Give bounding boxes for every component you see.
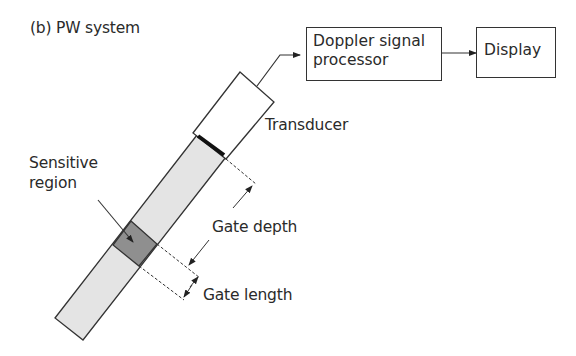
processor-label-line2: processor: [313, 51, 441, 70]
sensitive-region-pointer: [98, 200, 133, 242]
sensitive-region-label-line1: Sensitive: [29, 155, 98, 173]
gate-depth-arrow-top: [233, 186, 252, 208]
processor-label-line1: Doppler signal: [313, 32, 441, 51]
gate-depth-arrow-bottom: [189, 240, 209, 265]
gate-length-extension-bottom: [139, 266, 184, 300]
gate-length-arrow-bottom: [184, 285, 192, 297]
gate-depth-extension-bottom: [157, 244, 200, 278]
doppler-processor-block: Doppler signal processor: [306, 27, 442, 81]
gate-depth-label: Gate depth: [212, 219, 297, 237]
display-label: Display: [484, 41, 555, 60]
gate-depth-extension-top: [226, 159, 256, 184]
gate-length-label: Gate length: [203, 287, 292, 305]
transducer-label: Transducer: [265, 117, 348, 135]
sensitive-region-label-line2: region: [29, 175, 77, 193]
display-block: Display: [476, 27, 556, 78]
transducer-cable: [257, 55, 300, 86]
figure-title: (b) PW system: [30, 20, 140, 38]
